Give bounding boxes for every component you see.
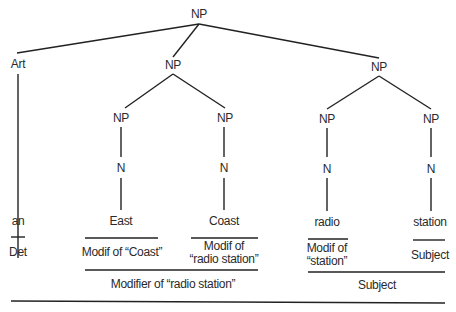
node-np-left: NP	[165, 58, 181, 72]
annotation-line-2: “radio station”	[190, 253, 259, 266]
node-n-station: N	[427, 162, 435, 176]
node-np-east: NP	[113, 111, 129, 125]
word-station: station	[413, 215, 446, 229]
node-np-coast: NP	[217, 111, 233, 125]
node-np-radio: NP	[319, 112, 335, 126]
node-n-coast: N	[220, 161, 228, 175]
annotation-det: Det	[9, 246, 27, 259]
node-root-np: NP	[191, 7, 207, 21]
node-np-right: NP	[371, 60, 387, 74]
word-coast: Coast	[209, 214, 239, 228]
node-art: Art	[11, 57, 25, 71]
word-radio: radio	[314, 215, 339, 229]
node-n-east: N	[117, 161, 125, 175]
annotation-modifier-radio-station: Modifier of “radio station”	[111, 278, 236, 291]
word-east: East	[110, 214, 133, 228]
annotation-line-2: “station”	[307, 255, 348, 268]
annotation-modif-station: Modif of “station”	[307, 242, 348, 268]
annotation-subject-large: Subject	[358, 279, 396, 292]
annotation-modif-coast: Modif of “Coast”	[82, 246, 163, 259]
annotation-subject-small: Subject	[411, 249, 449, 262]
node-n-radio: N	[323, 162, 331, 176]
node-np-station: NP	[423, 112, 439, 126]
annotation-modif-radio-station: Modif of “radio station”	[190, 240, 259, 266]
word-an: an	[12, 214, 25, 228]
